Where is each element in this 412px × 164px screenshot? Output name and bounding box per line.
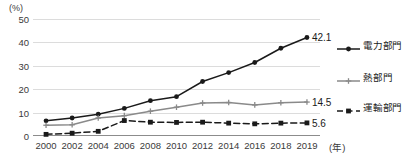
legend-label: 電力部門 [363, 38, 402, 52]
x-axis-tick: 2008 [140, 140, 161, 151]
data-point-marker [122, 106, 127, 111]
square-marker [337, 102, 360, 112]
x-axis-unit-label: (年) [329, 140, 345, 154]
x-axis-tick: 2004 [88, 140, 109, 151]
data-point-marker [252, 60, 257, 65]
data-point-marker [43, 122, 49, 128]
data-point-marker [95, 115, 101, 121]
x-axis-tick: 2006 [114, 140, 135, 151]
data-point-marker [305, 120, 310, 125]
data-point-marker [226, 121, 231, 126]
x-axis-tick: 2012 [192, 140, 213, 151]
data-point-marker [174, 120, 179, 125]
y-axis-tick: 40 [7, 37, 29, 48]
data-point-marker [278, 100, 284, 106]
data-point-marker [200, 79, 205, 84]
data-point-marker [252, 102, 258, 108]
data-point-marker [148, 98, 153, 103]
data-point-marker [69, 122, 75, 128]
legend-label: 熱部門 [363, 70, 392, 84]
legend-item-熱部門[interactable]: 熱部門 [337, 70, 392, 84]
x-axis-tick: 2019 [296, 140, 317, 151]
data-point-marker [70, 116, 75, 121]
legend-label: 運輸部門 [363, 100, 402, 114]
y-axis-tick: 50 [7, 14, 29, 25]
y-axis-tick: 10 [7, 107, 29, 118]
legend-item-運輸部門[interactable]: 運輸部門 [337, 100, 402, 114]
y-axis-tick: 0 [7, 131, 29, 142]
data-point-marker [278, 121, 283, 126]
renewable-share-line-chart: (%) 50403020100 200020022004200620082010… [0, 0, 412, 164]
data-point-marker [278, 46, 283, 51]
data-point-marker [174, 104, 180, 110]
x-axis-tick: 2016 [244, 140, 265, 151]
end-value-label-heat: 14.5 [312, 97, 331, 108]
data-point-marker [226, 100, 232, 106]
data-point-marker [252, 121, 257, 126]
plus-marker [337, 72, 360, 82]
x-axis-tick: 2018 [270, 140, 291, 151]
data-point-marker [148, 120, 153, 125]
data-point-marker [174, 94, 179, 99]
data-point-marker [305, 35, 310, 40]
data-point-marker [44, 132, 49, 137]
y-axis-tick: 20 [7, 84, 29, 95]
legend-item-電力部門[interactable]: 電力部門 [337, 38, 402, 52]
x-axis-tick: 2002 [62, 140, 83, 151]
end-value-label-transport: 5.6 [312, 117, 326, 128]
series-運輸部門 [44, 118, 310, 137]
x-axis-tick: 2000 [35, 140, 56, 151]
x-axis-tick: 2014 [218, 140, 239, 151]
circle-marker [337, 40, 360, 50]
data-point-marker [122, 118, 127, 123]
data-point-marker [148, 108, 154, 114]
x-axis-tick: 2010 [166, 140, 187, 151]
data-point-marker [200, 120, 205, 125]
data-point-marker [200, 100, 206, 106]
data-point-marker [226, 70, 231, 75]
data-point-marker [122, 113, 128, 119]
y-axis-tick: 30 [7, 60, 29, 71]
data-point-marker [96, 129, 101, 134]
data-point-marker [304, 99, 310, 105]
end-value-label-power: 42.1 [312, 32, 331, 43]
data-point-marker [70, 131, 75, 136]
